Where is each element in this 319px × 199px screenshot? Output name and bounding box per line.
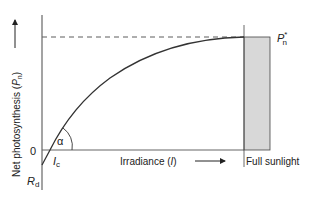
alpha-angle-arc: [63, 128, 72, 150]
alpha-label: α: [57, 135, 64, 147]
x-axis-label: Irradiance (I): [120, 156, 177, 167]
light-response-diagram: α 0 Ic Rd P*n Irradiance (I) Full sunlig…: [0, 0, 319, 199]
compensation-point-label: Ic: [53, 155, 60, 169]
full-sunlight-label: Full sunlight: [246, 156, 300, 167]
zero-label: 0: [30, 145, 36, 157]
dark-respiration-label: Rd: [27, 175, 39, 189]
full-sunlight-region: [244, 37, 270, 150]
y-axis-label: Net photosynthesis (Pn): [11, 72, 23, 177]
max-rate-label: P*n: [277, 30, 287, 47]
